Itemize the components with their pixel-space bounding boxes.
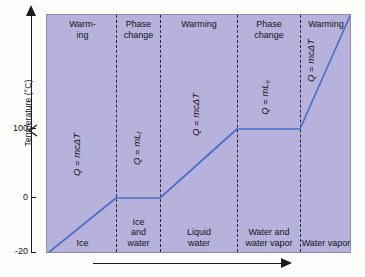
heating-curve-line — [47, 15, 351, 253]
region-bottom-label-5: Water vapor — [301, 238, 351, 249]
y-tick-label-minus20: -20 — [0, 246, 28, 256]
region-bottom-label-4-line1: Water and — [238, 227, 300, 238]
plot-area: Warm- ing Phase change Warming Phase cha… — [46, 14, 351, 253]
region-bottom-label-1-line1: Ice — [49, 238, 116, 249]
y-tick-label-100: 100 — [0, 123, 28, 133]
y-tick-label-0: 0 — [0, 192, 28, 202]
y-tick-mark-0 — [31, 197, 36, 198]
region-bottom-label-2-line3: water — [117, 238, 160, 249]
region-bottom-label-4: Water and water vapor — [238, 227, 300, 248]
region-bottom-label-3: Liquid water — [161, 227, 237, 248]
region-bottom-label-1: Ice — [49, 238, 116, 249]
axis-break-icon — [26, 124, 38, 137]
region-bottom-label-2: Ice and water — [117, 217, 160, 249]
region-bottom-label-5-line1: Water vapor — [301, 238, 351, 249]
x-axis-arrow-line — [93, 263, 283, 264]
region-bottom-label-2-line1: Ice — [117, 217, 160, 228]
x-axis-arrow-head-icon — [281, 258, 292, 268]
y-tick-mark-minus20 — [31, 252, 36, 253]
region-bottom-label-4-line2: water vapor — [238, 238, 300, 249]
region-bottom-label-3-line1: Liquid — [161, 227, 237, 238]
region-bottom-label-2-line2: and — [117, 227, 160, 238]
heating-curve-figure: Temperature (°C) 100 0 -20 Warm- ing Pha… — [0, 0, 365, 277]
y-axis-arrow-icon — [26, 5, 36, 16]
region-bottom-label-3-line2: water — [161, 238, 237, 249]
